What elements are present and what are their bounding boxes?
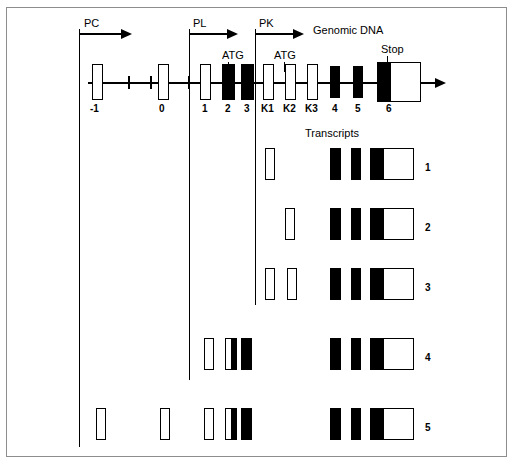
genomic-exon--1 xyxy=(92,64,103,100)
genomic-exon-label-K3: K3 xyxy=(305,103,318,114)
transcript-2-exon-2 xyxy=(351,208,361,240)
genomic-exon-label-0: 0 xyxy=(159,103,165,114)
genomic-exon-label-K2: K2 xyxy=(283,103,296,114)
transcript-4-exon-5 xyxy=(370,338,414,370)
transcript-number-4: 4 xyxy=(425,352,431,363)
genomic-exon-4 xyxy=(330,66,340,98)
transcript-number-3: 3 xyxy=(425,282,431,293)
transcript-3-exon-4 xyxy=(370,268,414,300)
promoter-arrow-shaft-PK xyxy=(255,33,293,35)
transcript-row-5: 5 xyxy=(0,0,519,1)
promoter-label-PL: PL xyxy=(193,18,206,29)
annotation-label-atg-1: ATG xyxy=(274,50,296,61)
genomic-exon-label-4: 4 xyxy=(332,103,338,114)
transcript-number-2: 2 xyxy=(425,222,431,233)
transcript-3-exon-0 xyxy=(265,268,275,300)
promoter-label-PC: PC xyxy=(84,18,99,29)
genomic-axis-segment-0 xyxy=(88,82,203,84)
transcript-1-exon-3 xyxy=(370,148,414,180)
genomic-exon-K1 xyxy=(263,64,274,100)
transcript-2-exon-0 xyxy=(285,208,295,240)
genomic-exon-label-K1: K1 xyxy=(261,103,274,114)
genomic-exon-K2 xyxy=(285,64,296,100)
promoter-arrowhead-PL xyxy=(227,29,238,39)
genomic-break-tick-0 xyxy=(128,76,130,89)
transcript-5-exon-0 xyxy=(96,408,106,440)
genomic-exon-label--1: -1 xyxy=(90,103,99,114)
promoter-guide-PC xyxy=(79,29,80,447)
genomic-exon-K3 xyxy=(307,64,318,100)
genomic-exon-1 xyxy=(200,64,211,100)
genomic-exon-label-1: 1 xyxy=(202,103,208,114)
transcript-5-exon-4 xyxy=(241,408,252,440)
genomic-exon-5 xyxy=(353,66,363,98)
gene-structure-diagram: Genomic DNA Transcripts PCPLPK ATGATGSto… xyxy=(0,0,519,469)
annotation-label-atg-0: ATG xyxy=(222,50,244,61)
transcript-4-exon-0 xyxy=(204,338,214,370)
transcript-2-exon-1 xyxy=(330,208,341,240)
genomic-dna-title: Genomic DNA xyxy=(313,25,383,36)
promoter-arrow-shaft-PL xyxy=(189,33,227,35)
genomic-exon-label-6: 6 xyxy=(386,103,392,114)
transcript-5-exon-1 xyxy=(160,408,170,440)
genomic-start-tick xyxy=(188,76,190,89)
transcript-4-exon-4 xyxy=(351,338,361,370)
promoter-label-PK: PK xyxy=(259,18,274,29)
transcript-5-exon-2 xyxy=(204,408,214,440)
annotation-label-stop-2: Stop xyxy=(381,44,404,55)
promoter-arrowhead-PC xyxy=(121,29,132,39)
transcript-1-exon-1 xyxy=(330,148,341,180)
transcript-4-exon-3 xyxy=(330,338,341,370)
transcript-2-exon-3 xyxy=(370,208,414,240)
genomic-exon-0 xyxy=(158,64,169,100)
transcript-5-exon-3 xyxy=(225,408,237,440)
genomic-exon-label-3: 3 xyxy=(244,103,250,114)
promoter-arrowhead-PK xyxy=(293,29,304,39)
transcript-1-exon-2 xyxy=(351,148,361,180)
genomic-exon-6 xyxy=(377,62,421,102)
genomic-terminal-arrowhead xyxy=(435,78,446,88)
transcript-number-1: 1 xyxy=(425,162,431,173)
transcript-number-5: 5 xyxy=(425,422,431,433)
genomic-exon-label-2: 2 xyxy=(225,103,231,114)
promoter-arrow-shaft-PC xyxy=(79,33,121,35)
transcript-5-exon-7 xyxy=(370,408,414,440)
genomic-exon-3 xyxy=(241,64,254,100)
transcript-1-exon-0 xyxy=(265,148,275,180)
genomic-exon-label-5: 5 xyxy=(355,103,361,114)
transcripts-heading: Transcripts xyxy=(305,128,359,139)
transcript-4-exon-2 xyxy=(241,338,252,370)
genomic-exon-2 xyxy=(222,64,235,100)
promoter-guide-PK xyxy=(255,29,256,305)
transcript-3-exon-3 xyxy=(351,268,361,300)
transcript-3-exon-1 xyxy=(287,268,297,300)
transcript-4-exon-1 xyxy=(225,338,237,370)
transcript-5-exon-5 xyxy=(330,408,341,440)
transcript-3-exon-2 xyxy=(330,268,341,300)
transcript-5-exon-6 xyxy=(351,408,361,440)
genomic-break-tick-1 xyxy=(150,76,152,89)
